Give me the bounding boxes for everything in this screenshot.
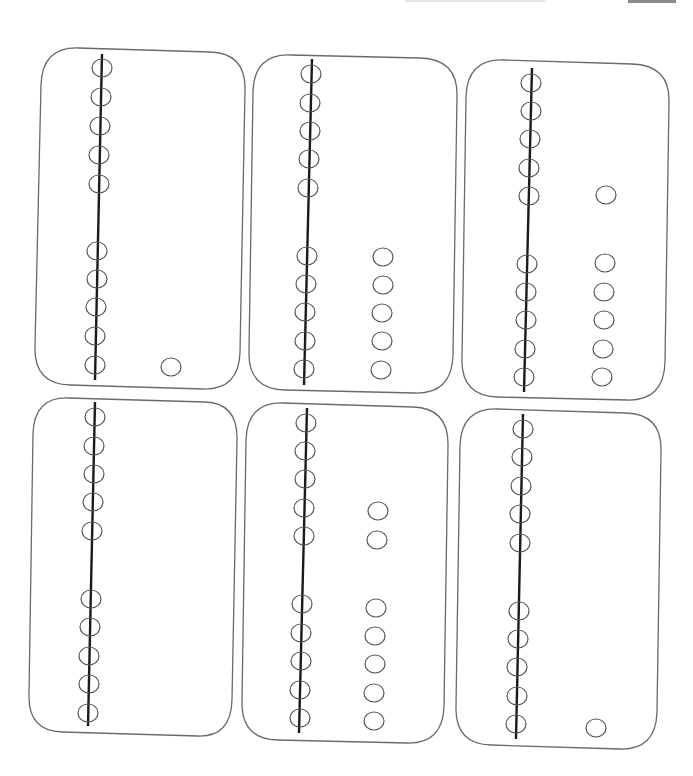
card-4[interactable]: [29, 398, 237, 736]
cards-sheet: [0, 0, 693, 776]
card-2[interactable]: [249, 55, 457, 393]
card-6[interactable]: [456, 409, 661, 749]
card-3[interactable]: [462, 60, 669, 400]
card-5[interactable]: [242, 403, 448, 743]
card-1[interactable]: [35, 48, 245, 389]
